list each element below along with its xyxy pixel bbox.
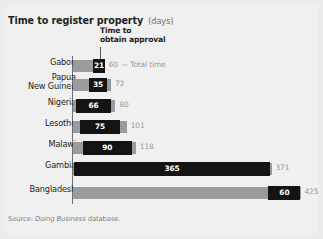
bar-row-label: Lesotho [14,119,76,128]
bar-area: 2160— Total time [73,58,301,73]
source-suffix: database. [88,215,121,223]
bar-row: Lesotho75101 [0,119,323,134]
bar-segment-approval: 90 [83,141,131,155]
source-prefix: Source: [8,215,33,223]
bar-row-label: Nigeria [14,98,76,107]
source-note: Source: Doing Business database. [8,215,120,223]
source-italic: Doing Business [35,215,86,223]
total-value-label: 425 [305,188,319,195]
chart-figure: Time to register property (days) Time to… [0,0,323,239]
bar-area: 60425 [73,185,301,200]
bar-segment-approval: 66 [76,99,111,113]
bar-area: 6680 [73,98,301,113]
bar-row: Gabon2160— Total time [0,58,323,73]
bar-area: 75101 [73,119,301,134]
bar-row: PapuaNew Guinea3572 [0,77,323,92]
approval-value-label: 21 [94,62,104,69]
plot-area: Gabon2160— Total timePapuaNew Guinea3572… [0,0,323,239]
total-value-label: 118 [140,143,154,150]
approval-value-label: 75 [95,123,105,130]
bar-segment-total [73,187,301,199]
approval-value-label: 35 [93,81,103,88]
bar-segment-approval: 75 [80,120,120,134]
bar-area: 90118 [73,140,301,155]
bar-row-label: Bangladesh [14,185,76,194]
bar-segment-approval: 21 [93,59,104,73]
bar-row: Bangladesh60425 [0,185,323,200]
total-value-label: 80 [119,101,128,108]
bar-row: Malawi90118 [0,140,323,155]
bar-row-label: Malawi [14,140,76,149]
approval-value-label: 66 [88,102,98,109]
bar-area: 3572 [73,77,301,92]
approval-value-label: 365 [164,165,179,172]
total-value-label: 371 [276,164,290,171]
total-time-annotation: — Total time [121,61,166,68]
total-value-label: 72 [115,80,124,87]
bar-segment-approval: 365 [74,162,270,176]
approval-value-label: 90 [102,144,112,151]
bar-row: Nigeria6680 [0,98,323,113]
approval-value-label: 60 [279,189,289,196]
total-value-label: 101 [131,122,145,129]
bar-row-label: Gambia [14,161,76,170]
bar-row: Gambia365371 [0,161,323,176]
bar-area: 365371 [73,161,301,176]
bar-segment-approval: 35 [89,78,108,92]
total-value-label: 60 [109,61,118,68]
bar-segment-approval: 60 [268,186,300,200]
bar-row-label: PapuaNew Guinea [14,73,76,90]
bar-row-label: Gabon [14,58,76,67]
